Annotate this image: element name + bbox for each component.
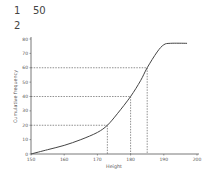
cumulative-frequency-curve [31, 43, 187, 154]
y-tick-label: 40 [22, 94, 28, 99]
y-tick-label: 0 [25, 152, 28, 157]
y-tick-label: 50 [22, 80, 28, 85]
x-tick-label: 150 [27, 157, 36, 162]
y-tick-label: 10 [22, 137, 28, 142]
y-tick-label: 80 [22, 37, 28, 42]
y-tick-label: 20 [22, 123, 28, 128]
y-tick-label: 60 [22, 65, 28, 70]
y-tick-label: 30 [22, 108, 28, 113]
cumulative-frequency-chart: 01020304050607080150160170180190200Heigh… [0, 0, 207, 182]
x-tick-label: 170 [93, 157, 102, 162]
x-tick-label: 190 [160, 157, 169, 162]
x-tick-label: 180 [126, 157, 135, 162]
y-tick-label: 70 [22, 51, 28, 56]
x-tick-label: 200 [193, 157, 202, 162]
y-axis-title: Cumulative frequency [13, 70, 18, 123]
x-tick-label: 160 [60, 157, 69, 162]
x-axis-title: Height [106, 164, 122, 169]
